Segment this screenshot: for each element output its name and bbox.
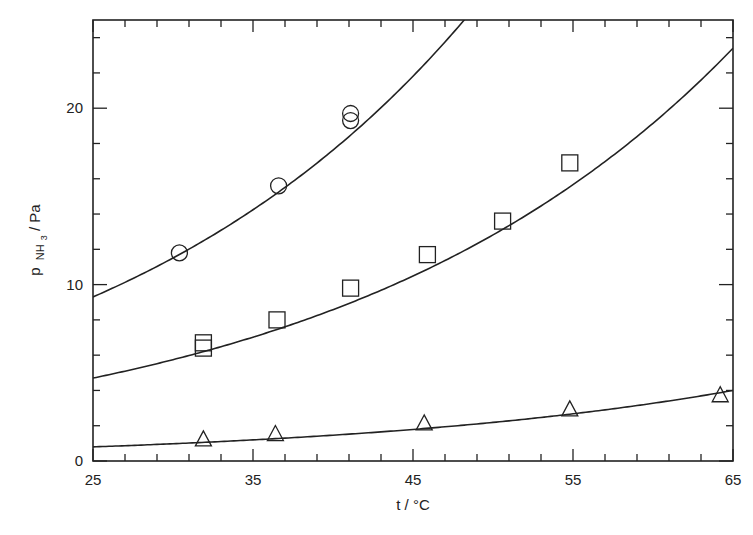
x-tick-label: 25 <box>85 471 102 488</box>
data-point-square <box>195 335 211 351</box>
x-tick-label: 65 <box>725 471 742 488</box>
data-markers <box>171 105 728 445</box>
fit-curves <box>93 0 733 447</box>
data-point-triangle <box>195 431 211 446</box>
plot-border <box>93 20 733 461</box>
data-point-circle <box>171 245 187 261</box>
data-point-square <box>419 247 435 263</box>
y-axis-label-main: p <box>26 267 43 275</box>
data-point-square <box>562 155 578 171</box>
y-tick-label: 10 <box>66 276 83 293</box>
axis-ticks <box>93 20 733 461</box>
x-tick-label: 55 <box>565 471 582 488</box>
y-tick-label: 20 <box>66 99 83 116</box>
fit-curve-circles <box>93 0 733 297</box>
data-point-circle <box>343 113 359 129</box>
fit-curve-triangles <box>93 390 733 446</box>
plot-frame <box>93 20 733 461</box>
chart: 253545556501020 t / °C p NH 3 / Pa <box>0 0 753 535</box>
y-axis-label-sub: NH <box>34 244 46 260</box>
fit-curve-squares <box>93 48 733 378</box>
x-axis-label: t / °C <box>396 496 430 513</box>
y-axis-label-subsub: 3 <box>39 235 49 240</box>
data-point-square <box>343 280 359 296</box>
x-tick-label: 45 <box>405 471 422 488</box>
data-point-circle <box>343 105 359 121</box>
data-point-square <box>269 312 285 328</box>
x-tick-label: 35 <box>245 471 262 488</box>
y-axis-label: p NH 3 / Pa <box>26 204 50 276</box>
y-tick-label: 0 <box>75 452 83 469</box>
y-axis-label-unit: / Pa <box>26 204 43 231</box>
